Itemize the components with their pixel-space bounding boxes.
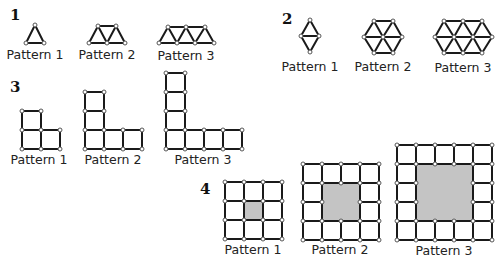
vertex-node [280, 218, 284, 222]
vertex-node [395, 181, 399, 185]
vertex-node [301, 200, 305, 204]
vertex-node [395, 162, 399, 166]
vertex-node [317, 34, 321, 38]
toothpick [301, 36, 310, 52]
problem-1-figures [24, 23, 216, 45]
toothpick [482, 21, 492, 37]
vertex-node [490, 200, 494, 204]
pattern-2-figure [362, 19, 404, 55]
shaded-center [244, 201, 263, 220]
vertex-node [320, 219, 324, 223]
vertex-node [20, 128, 24, 132]
toothpick [383, 21, 393, 37]
vertex-node [121, 128, 125, 132]
pattern-3-figure [433, 19, 494, 55]
vertex-node [301, 238, 305, 242]
vertex-node [320, 181, 324, 185]
vertex-node [39, 147, 43, 151]
vertex-node [471, 162, 475, 166]
vertex-node [452, 219, 456, 223]
vertex-node [280, 237, 284, 241]
vertex-node [358, 181, 362, 185]
p4-pattern-3-label: Pattern 3 [416, 243, 473, 258]
vertex-node [242, 180, 246, 184]
problem-1-number: 1 [10, 6, 20, 24]
vertex-node [400, 35, 404, 39]
p2-pattern-2-label: Pattern 2 [355, 59, 412, 74]
pattern-2-figure [83, 90, 144, 151]
vertex-node [33, 23, 37, 27]
vertex-node [140, 147, 144, 151]
shaded-center [416, 164, 473, 221]
vertex-node [242, 199, 246, 203]
p2-pattern-3-label: Pattern 3 [435, 60, 492, 75]
vertex-node [183, 128, 187, 132]
vertex-node [223, 218, 227, 222]
vertex-node [308, 18, 312, 22]
vertex-node [433, 238, 437, 242]
vertex-node [381, 35, 385, 39]
vertex-node [20, 109, 24, 113]
vertex-node [320, 162, 324, 166]
toothpick [186, 27, 195, 43]
vertex-node [452, 238, 456, 242]
p1-pattern-1-label: Pattern 1 [7, 47, 64, 62]
vertex-node [102, 90, 106, 94]
diagram-canvas [0, 0, 502, 262]
vertex-node [372, 51, 376, 55]
vertex-node [414, 181, 418, 185]
vertex-node [42, 41, 46, 45]
vertex-node [83, 147, 87, 151]
vertex-node [433, 219, 437, 223]
toothpick [482, 37, 492, 53]
toothpick [463, 21, 473, 37]
pattern-2-figure [301, 162, 381, 242]
pattern-1-figure [20, 109, 62, 151]
vertex-node [223, 180, 227, 184]
vertex-node [105, 41, 109, 45]
vertex-node [175, 41, 179, 45]
vertex-node [299, 34, 303, 38]
toothpick [89, 26, 98, 43]
vertex-node [490, 219, 494, 223]
vertex-node [395, 143, 399, 147]
pattern-2-figure [87, 24, 127, 45]
toothpick [383, 37, 393, 53]
vertex-node [221, 128, 225, 132]
vertex-node [391, 51, 395, 55]
vertex-node [261, 199, 265, 203]
p1-pattern-2-label: Pattern 2 [79, 47, 136, 62]
vertex-node [471, 200, 475, 204]
vertex-node [490, 181, 494, 185]
vertex-node [339, 219, 343, 223]
pattern-1-figure [299, 18, 321, 54]
toothpick [374, 37, 383, 53]
vertex-node [114, 24, 118, 28]
vertex-node [221, 147, 225, 151]
toothpick [444, 37, 454, 53]
vertex-node [121, 147, 125, 151]
toothpick [116, 26, 125, 43]
vertex-node [184, 25, 188, 29]
vertex-node [39, 109, 43, 113]
vertex-node [212, 41, 216, 45]
vertex-node [193, 41, 197, 45]
toothpick [98, 26, 107, 43]
problem-2-number: 2 [282, 10, 292, 28]
toothpick [195, 27, 205, 43]
toothpick [107, 26, 116, 43]
vertex-node [490, 162, 494, 166]
vertex-node [39, 128, 43, 132]
vertex-node [183, 71, 187, 75]
vertex-node [157, 41, 161, 45]
vertex-node [452, 162, 456, 166]
p3-pattern-2-label: Pattern 2 [85, 152, 142, 167]
p4-pattern-1-label: Pattern 1 [225, 242, 282, 257]
vertex-node [20, 147, 24, 151]
vertex-node [461, 19, 465, 23]
toothpick [454, 21, 463, 37]
vertex-node [280, 199, 284, 203]
vertex-node [442, 51, 446, 55]
vertex-node [414, 238, 418, 242]
vertex-node [362, 35, 366, 39]
